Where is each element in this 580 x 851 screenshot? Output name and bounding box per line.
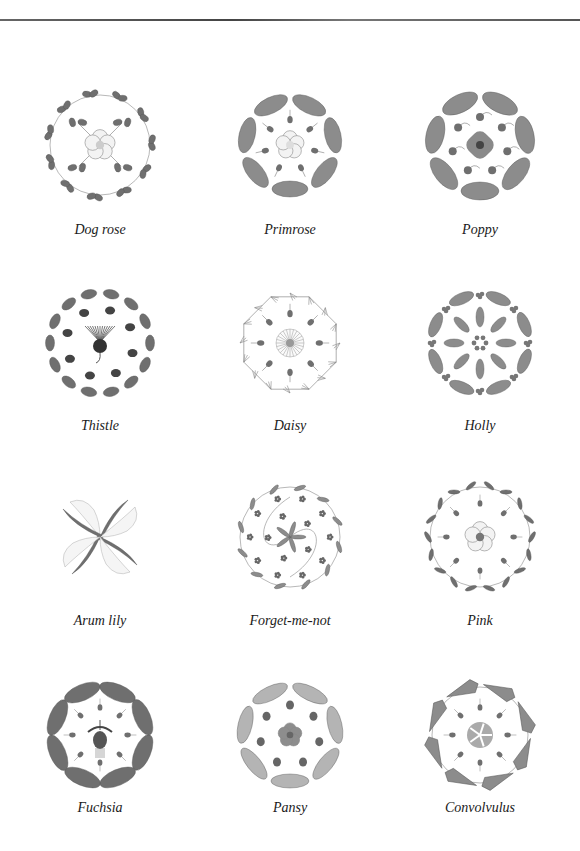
pinwheel-leaves-illustration xyxy=(40,462,160,612)
lobed-leaf-ring-illustration xyxy=(420,70,540,220)
figure-caption: Pink xyxy=(385,613,575,629)
figure-dog-rose: Dog rose xyxy=(5,70,195,265)
figure-primrose: Primrose xyxy=(195,70,385,265)
figure-pink: Pink xyxy=(385,462,575,657)
figure-thistle: Thistle xyxy=(5,268,195,463)
figure-caption: Dog rose xyxy=(5,222,195,238)
oval-leaf-ring-illustration xyxy=(40,660,160,810)
figure-arum-lily: Arum lily xyxy=(5,462,195,657)
figure-caption: Convolvulus xyxy=(385,800,575,816)
figure-caption: Forget-me-not xyxy=(195,613,385,629)
figure-daisy: Daisy xyxy=(195,268,385,463)
figure-pansy: Pansy xyxy=(195,660,385,851)
figure-convolvulus: Convolvulus xyxy=(385,660,575,851)
figure-caption: Fuchsia xyxy=(5,800,195,816)
feathery-stem-ring-illustration xyxy=(230,268,350,418)
slender-leaf-vine-ring-illustration xyxy=(420,462,540,612)
figure-caption: Daisy xyxy=(195,418,385,434)
top-rule xyxy=(0,19,580,21)
leafy-vine-wreath-illustration xyxy=(40,70,160,220)
scrolling-vine-circle-illustration xyxy=(230,462,350,612)
arrow-leaf-ring-illustration xyxy=(420,660,540,810)
figure-forget-me-not: Forget-me-not xyxy=(195,462,385,657)
figure-caption: Holly xyxy=(385,418,575,434)
figure-caption: Primrose xyxy=(195,222,385,238)
figure-fuchsia: Fuchsia xyxy=(5,660,195,851)
crinkled-leaf-ring-illustration xyxy=(230,70,350,220)
figure-caption: Arum lily xyxy=(5,613,195,629)
holly-leaf-ring-illustration xyxy=(420,268,540,418)
spiny-leaf-ring-illustration xyxy=(40,268,160,418)
figure-caption: Poppy xyxy=(385,222,575,238)
figure-caption: Thistle xyxy=(5,418,195,434)
figure-holly: Holly xyxy=(385,268,575,463)
figure-poppy: Poppy xyxy=(385,70,575,265)
figure-caption: Pansy xyxy=(195,800,385,816)
serrated-leaf-ring-illustration xyxy=(230,660,350,810)
